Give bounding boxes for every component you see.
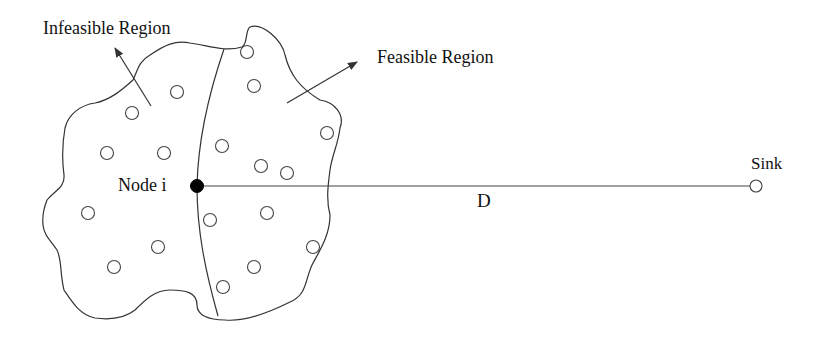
sensor-node — [216, 140, 229, 153]
sensor-node — [261, 207, 274, 220]
infeasible-region-label: Infeasible Region — [43, 19, 170, 37]
sink-label: Sink — [751, 155, 782, 172]
sensor-node — [152, 241, 165, 254]
sensor-node — [241, 46, 254, 59]
distance-label: D — [477, 191, 491, 210]
sensor-node — [281, 167, 294, 180]
sink-node-marker — [750, 180, 762, 192]
sensor-nodes — [82, 46, 334, 294]
sensor-node — [101, 147, 114, 160]
sensor-node — [204, 214, 217, 227]
sensor-node — [158, 147, 171, 160]
sensor-node — [82, 207, 95, 220]
sensor-node — [108, 261, 121, 274]
sensor-node — [126, 107, 139, 120]
feasible-region-pointer-arrow — [287, 62, 357, 103]
sensor-node — [171, 86, 184, 99]
sensor-node — [307, 241, 320, 254]
node-i-marker — [191, 180, 204, 193]
sensor-node — [248, 80, 261, 93]
infeasible-region-pointer-arrow — [115, 48, 151, 106]
sensor-node — [255, 160, 268, 173]
sensor-node — [248, 261, 261, 274]
feasible-region-label: Feasible Region — [377, 48, 493, 66]
node-i-label: Node i — [118, 176, 167, 194]
sensor-node — [217, 281, 230, 294]
sensor-node — [321, 127, 334, 140]
region-boundary — [43, 26, 341, 320]
